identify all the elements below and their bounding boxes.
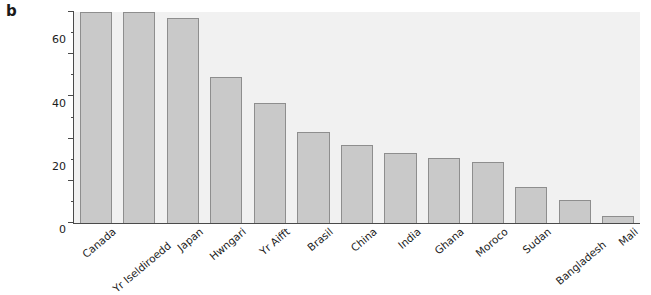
y-tick-label: 100 xyxy=(45,0,66,118)
panel-letter-label: b xyxy=(6,4,17,19)
x-tick-label: Ghana xyxy=(433,226,466,256)
bar xyxy=(602,216,634,223)
bar xyxy=(341,145,373,223)
bar xyxy=(559,200,591,223)
x-axis-labels: CanadaYr IseldiroeddJapanHwngariYr Aifft… xyxy=(73,224,639,284)
plot-area: 020406080100 xyxy=(73,12,640,224)
bar xyxy=(428,158,460,223)
x-tick-label: India xyxy=(396,226,422,251)
bar xyxy=(297,132,329,223)
bar xyxy=(80,12,112,223)
y-axis-title: Canran y merched mewn addysg uwchradd xyxy=(0,14,2,214)
bar xyxy=(384,153,416,223)
bar xyxy=(254,103,286,223)
bar xyxy=(210,77,242,223)
x-tick-label: Moroco xyxy=(473,226,509,259)
x-tick-label: Yr Aifft xyxy=(258,226,292,257)
x-tick-label: Sudan xyxy=(521,226,553,255)
bar xyxy=(472,162,504,223)
x-tick-label: Yr Iseldiroedd xyxy=(111,240,173,294)
x-tick-label: Mali xyxy=(617,226,640,248)
x-tick-label: Japan xyxy=(175,226,204,253)
bar xyxy=(123,12,155,223)
x-tick-label: China xyxy=(349,226,379,253)
x-tick-label: Canada xyxy=(80,226,117,260)
bars-layer xyxy=(74,12,640,223)
bar xyxy=(515,187,547,223)
x-tick-label: Bangladesh xyxy=(554,239,608,287)
x-tick-label: Brasil xyxy=(306,226,335,253)
bar xyxy=(167,18,199,223)
x-tick-label: Hwngari xyxy=(208,226,248,262)
